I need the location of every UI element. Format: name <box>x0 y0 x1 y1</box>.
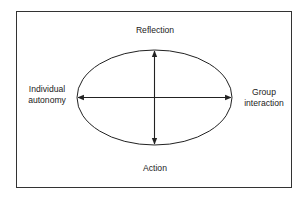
label-group-interaction-line2: interaction <box>233 98 295 109</box>
label-reflection: Reflection <box>125 25 185 36</box>
label-individual-autonomy-line1: Individual <box>17 84 77 95</box>
label-action: Action <box>125 163 185 174</box>
label-individual-autonomy-line2: autonomy <box>17 95 77 106</box>
label-individual-autonomy: Individual autonomy <box>17 84 77 106</box>
label-group-interaction-line1: Group <box>233 87 295 98</box>
label-group-interaction: Group interaction <box>233 87 295 109</box>
